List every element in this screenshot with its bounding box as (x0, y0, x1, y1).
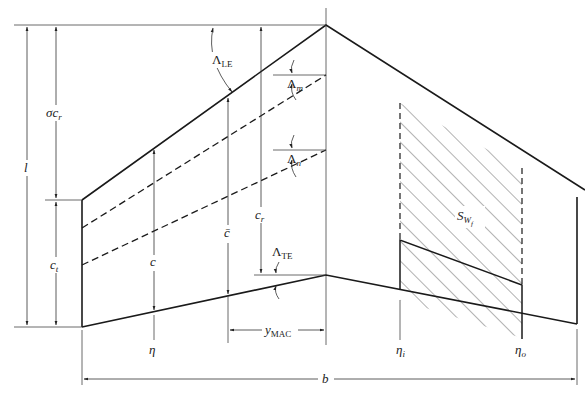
angle-arc-lambda-te-top (276, 262, 279, 273)
label-lambda-n: Λn (287, 151, 301, 168)
sweep-line-n (82, 150, 326, 265)
label-c-bar: c̄ (224, 225, 231, 240)
wing-planform-diagram: l σcr ct c η c̄ cr yMAC ΛLE Λm Λn ΛTE SW… (0, 0, 585, 399)
angle-arc-lambda-te-bottom (275, 286, 279, 299)
label-eta-i: ηi (396, 342, 405, 359)
angle-arc-lambda-m-top (291, 60, 294, 73)
label-lambda-m: Λm (287, 76, 303, 93)
angle-arc-lambda-n-top (291, 135, 294, 148)
label-eta-o: ηo (515, 342, 526, 359)
label-c: c (150, 254, 156, 269)
label-eta: η (149, 342, 155, 357)
label-lambda-te: ΛTE (272, 244, 293, 261)
label-l: l (24, 160, 28, 175)
label-b: b (322, 371, 329, 386)
